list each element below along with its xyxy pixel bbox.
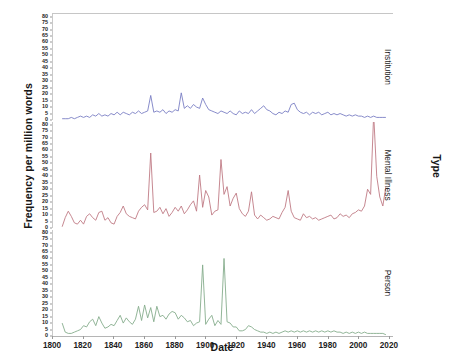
- y-tick-label: 50: [42, 53, 48, 58]
- x-tick-mark: [328, 336, 329, 339]
- x-tick-label: 2020: [380, 341, 398, 350]
- panel-label-person: Person: [383, 230, 393, 336]
- y-tick-label: 10: [42, 104, 48, 109]
- series-line-mental_illness: [62, 122, 386, 227]
- x-tick-label: 1820: [74, 341, 92, 350]
- x-tick-mark: [52, 336, 53, 339]
- y-tick-label: 5: [45, 219, 48, 224]
- panel-mental-illness: [52, 122, 392, 228]
- y-tick-label: 80: [42, 122, 48, 127]
- y-tick-label: 70: [42, 243, 48, 248]
- y-tick-label: 40: [42, 174, 48, 179]
- y-tick-label: 5: [45, 327, 48, 332]
- x-tick-mark: [389, 336, 390, 339]
- y-tick-label: 55: [42, 46, 48, 51]
- y-tick-label: 55: [42, 154, 48, 159]
- y-ticks-institution: 05101520253035404550556065707580: [24, 14, 50, 120]
- x-tick-mark: [144, 336, 145, 339]
- x-tick-mark: [236, 336, 237, 339]
- y-tick-label: 55: [42, 262, 48, 267]
- figure-root: Frequency per million words Date Type 05…: [0, 0, 459, 361]
- panel-person: [52, 230, 392, 336]
- x-tick-label: 1940: [257, 341, 275, 350]
- y-tick-label: 45: [42, 59, 48, 64]
- y-tick-label: 25: [42, 301, 48, 306]
- y-tick-label: 20: [42, 307, 48, 312]
- x-tick-mark: [358, 336, 359, 339]
- y-tick-label: 15: [42, 98, 48, 103]
- series-line-person: [62, 258, 386, 334]
- y-tick-label: 60: [42, 256, 48, 261]
- x-tick-mark: [175, 336, 176, 339]
- strip-title-type: Type: [431, 144, 443, 188]
- y-tick-label: 10: [42, 320, 48, 325]
- y-tick-label: 30: [42, 295, 48, 300]
- y-tick-label: 30: [42, 187, 48, 192]
- x-tick-mark: [297, 336, 298, 339]
- y-tick-label: 50: [42, 161, 48, 166]
- x-tick-mark: [113, 336, 114, 339]
- y-tick-label: 80: [42, 230, 48, 235]
- x-tick-label: 1980: [319, 341, 337, 350]
- x-axis-line: [52, 336, 393, 337]
- y-tick-label: 15: [42, 314, 48, 319]
- x-tick-label: 1860: [135, 341, 153, 350]
- x-tick-label: 1800: [43, 341, 61, 350]
- y-tick-label: 25: [42, 85, 48, 90]
- x-tick-mark: [83, 336, 84, 339]
- y-tick-label: 30: [42, 79, 48, 84]
- y-tick-label: 5: [45, 111, 48, 116]
- y-ticks-person: 05101520253035404550556065707580: [24, 230, 50, 336]
- x-tick-mark: [266, 336, 267, 339]
- y-tick-label: 65: [42, 33, 48, 38]
- series-line-institution: [62, 93, 386, 119]
- y-tick-label: 20: [42, 199, 48, 204]
- x-tick-label: 1880: [165, 341, 183, 350]
- y-tick-label: 65: [42, 249, 48, 254]
- y-tick-label: 0: [45, 333, 48, 338]
- x-tick-label: 1900: [196, 341, 214, 350]
- panel-institution: [52, 14, 392, 120]
- y-tick-label: 80: [42, 14, 48, 19]
- x-tick-label: 1840: [104, 341, 122, 350]
- y-tick-label: 60: [42, 40, 48, 45]
- x-tick-mark: [205, 336, 206, 339]
- y-tick-label: 70: [42, 27, 48, 32]
- y-ticks-mental-illness: 05101520253035404550556065707580: [24, 122, 50, 228]
- y-tick-label: 60: [42, 148, 48, 153]
- x-tick-label: 2000: [349, 341, 367, 350]
- x-tick-label: 1920: [227, 341, 245, 350]
- y-tick-label: 15: [42, 206, 48, 211]
- y-tick-label: 50: [42, 269, 48, 274]
- panel-label-institution: Institution: [383, 14, 393, 120]
- y-tick-label: 10: [42, 212, 48, 217]
- y-tick-label: 65: [42, 141, 48, 146]
- x-axis-title: Date: [52, 341, 392, 353]
- y-tick-label: 25: [42, 193, 48, 198]
- y-tick-label: 45: [42, 167, 48, 172]
- series-mental-illness: [53, 122, 392, 228]
- x-tick-label: 1960: [288, 341, 306, 350]
- y-tick-label: 70: [42, 135, 48, 140]
- y-tick-label: 35: [42, 288, 48, 293]
- y-tick-label: 35: [42, 180, 48, 185]
- y-tick-label: 75: [42, 20, 48, 25]
- y-tick-label: 40: [42, 66, 48, 71]
- y-tick-label: 35: [42, 72, 48, 77]
- series-person: [53, 230, 392, 336]
- y-tick-label: 75: [42, 236, 48, 241]
- y-tick-label: 20: [42, 91, 48, 96]
- y-tick-label: 45: [42, 275, 48, 280]
- y-tick-label: 75: [42, 128, 48, 133]
- y-tick-label: 40: [42, 282, 48, 287]
- series-institution: [53, 14, 392, 120]
- panel-label-mental-illness: Mental Illness: [383, 122, 393, 228]
